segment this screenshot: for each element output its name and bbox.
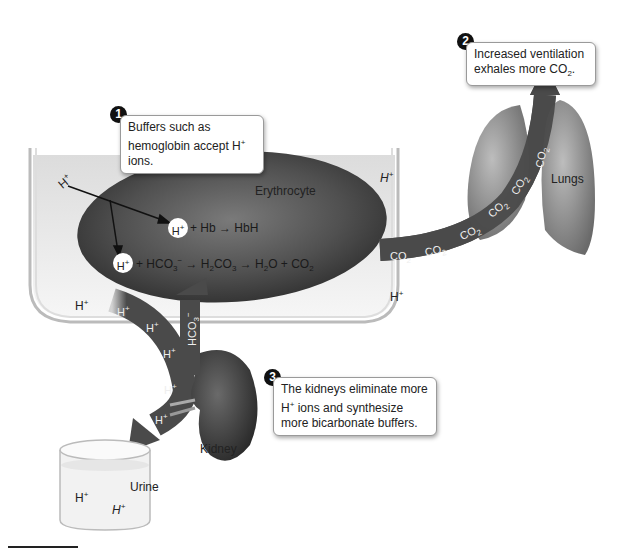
callout-3-line2: H+ ions and synthesize: [281, 397, 429, 416]
kidney-label: Kidney: [200, 442, 237, 456]
lungs-label: Lungs: [551, 172, 584, 186]
callout-2-line2: exhales more CO2.: [474, 62, 588, 81]
callout-step-2: Increased ventilation exhales more CO2.: [466, 42, 596, 86]
h-ion-label-plasma-2: H+: [390, 289, 403, 304]
arrow-h-ion-4: H+: [164, 382, 177, 396]
arrow-h-ion-5: H+: [155, 412, 168, 426]
h-ion-circle-1: H+: [168, 218, 188, 238]
callout-3-line3: more bicarbonate buffers.: [281, 416, 429, 431]
arrow-h-ion-1: H+: [117, 304, 130, 318]
h-ion-label-plasma-1: H+: [380, 170, 393, 185]
h-ion-label-plasma-3: H+: [75, 298, 88, 313]
callout-step-3: The kidneys eliminate more H+ ions and s…: [273, 377, 437, 436]
erythrocyte-label: Erythrocyte: [255, 184, 316, 198]
callout-step-1: Buffers such as hemoglobin accept H+ ion…: [120, 115, 264, 174]
h-ion-label-urine-2: H+: [112, 502, 125, 517]
reaction-1: + Hb → HbH: [190, 221, 258, 235]
callout-1-line2: hemoglobin accept H+ ions.: [128, 135, 256, 169]
callout-2-line1: Increased ventilation: [474, 47, 588, 62]
h-ion-label-urine-1: H+: [75, 490, 88, 505]
callout-3-line1: The kidneys eliminate more: [281, 382, 429, 397]
arrow-h-ion-2: H+: [146, 320, 159, 334]
urine-label: Urine: [130, 480, 159, 494]
bicarbonate-label: HCO3−: [184, 312, 201, 346]
h-ion-circle-2: H+: [113, 253, 133, 273]
co2-label-1: CO2: [390, 250, 411, 265]
callout-1-line1: Buffers such as: [128, 120, 256, 135]
arrow-h-ion-3: H+: [163, 346, 176, 360]
reaction-2: + HCO3− → H2CO3 → H2O + CO2: [136, 256, 314, 273]
